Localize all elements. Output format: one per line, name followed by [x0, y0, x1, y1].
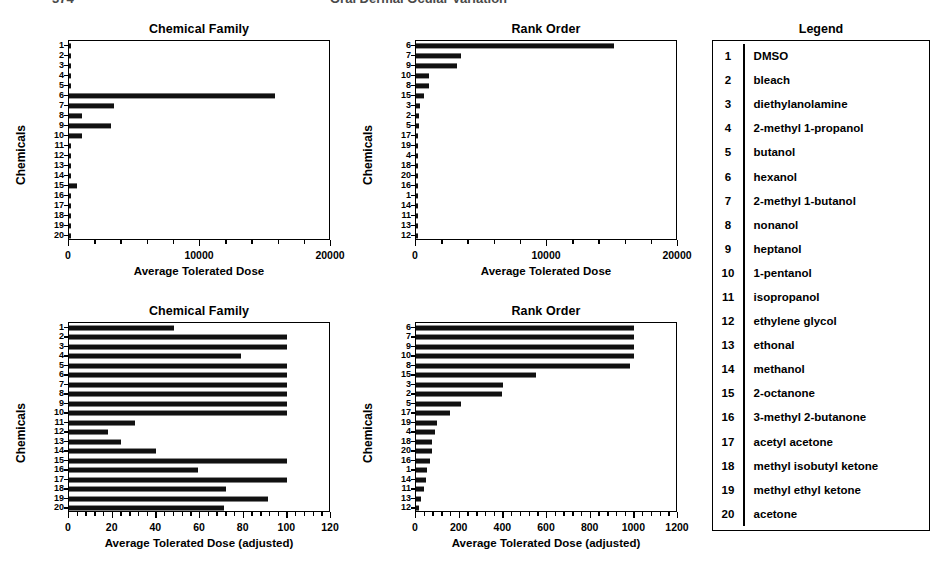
x-minor-tick-mark — [572, 512, 573, 516]
legend-row-number: 2 — [713, 74, 743, 86]
bar-row — [416, 494, 676, 504]
bar-row — [416, 361, 676, 371]
plot-area — [415, 322, 677, 512]
bar-row — [416, 485, 676, 495]
y-tick-mark — [411, 327, 415, 328]
y-tick-mark — [411, 365, 415, 366]
bar — [416, 487, 424, 492]
legend-row-label: 3-methyl 2-butanone — [745, 411, 866, 423]
legend-row-number: 17 — [713, 436, 743, 448]
x-tick-label: 600 — [537, 521, 555, 533]
legend-row: 14methanol — [713, 357, 929, 381]
bar — [416, 430, 435, 435]
bar — [416, 344, 634, 349]
y-tick-mark — [411, 384, 415, 385]
bar-row — [416, 342, 676, 352]
x-minor-tick-mark — [511, 512, 512, 516]
bar — [416, 411, 450, 416]
x-tick-mark — [590, 512, 591, 518]
bar — [416, 335, 634, 340]
legend-row-label: nonanol — [745, 219, 799, 231]
legend-row-label: methyl ethyl ketone — [745, 484, 861, 496]
legend-row: 17acetyl acetone — [713, 430, 929, 454]
bar — [416, 477, 426, 482]
x-minor-tick-mark — [668, 512, 669, 516]
bar-row — [416, 456, 676, 466]
x-minor-tick-mark — [616, 512, 617, 516]
legend-row-label: butanol — [745, 146, 796, 158]
legend-row: 13ethonal — [713, 333, 929, 357]
x-axis-title: Average Tolerated Dose (adjusted) — [415, 537, 677, 549]
legend-row-number: 4 — [713, 122, 743, 134]
x-tick-mark — [633, 512, 634, 518]
legend-row: 163-methyl 2-butanone — [713, 405, 929, 429]
y-tick-mark — [411, 346, 415, 347]
legend-row-number: 7 — [713, 195, 743, 207]
legend-row: 19methyl ethyl ketone — [713, 478, 929, 502]
y-tick-mark — [411, 374, 415, 375]
legend-row-number: 5 — [713, 146, 743, 158]
x-tick-mark — [415, 512, 416, 518]
y-axis-title: Chemicals — [361, 403, 375, 463]
legend-row-number: 9 — [713, 243, 743, 255]
legend-row-number: 16 — [713, 411, 743, 423]
legend-row-label: 2-methyl 1-butanol — [745, 195, 856, 207]
legend-row-number: 10 — [713, 267, 743, 279]
y-tick-mark — [411, 412, 415, 413]
bar-row — [416, 418, 676, 428]
legend-row-number: 20 — [713, 508, 743, 520]
bar — [416, 420, 437, 425]
y-tick-mark — [411, 422, 415, 423]
legend-row-label: 2-methyl 1-propanol — [745, 122, 864, 134]
bar — [416, 496, 421, 501]
x-minor-tick-mark — [467, 512, 468, 516]
bar — [416, 373, 536, 378]
legend-row-label: acetyl acetone — [745, 436, 833, 448]
y-tick-mark — [411, 507, 415, 508]
legend-row: 18methyl isobutyl ketone — [713, 454, 929, 478]
bar — [416, 506, 419, 511]
x-minor-tick-mark — [607, 512, 608, 516]
bar-row — [416, 371, 676, 381]
legend-row: 20acetone — [713, 502, 929, 526]
legend-table: 1DMSO2bleach3diethylanolamine42-methyl 1… — [712, 40, 930, 531]
legend-row-label: methyl isobutyl ketone — [745, 460, 879, 472]
bar-row — [416, 380, 676, 390]
y-tick-mark — [411, 450, 415, 451]
bar-row — [416, 390, 676, 400]
legend-row-label: acetone — [745, 508, 797, 520]
legend-row-number: 13 — [713, 339, 743, 351]
y-tick-mark — [411, 336, 415, 337]
legend-row: 1DMSO — [713, 44, 929, 68]
x-minor-tick-mark — [563, 512, 564, 516]
x-tick-mark — [502, 512, 503, 518]
x-tick-label: 0 — [412, 521, 418, 533]
bar-row — [416, 475, 676, 485]
legend-row-number: 14 — [713, 363, 743, 375]
legend-row-number: 11 — [713, 291, 743, 303]
legend-row: 72-methyl 1-butanol — [713, 189, 929, 213]
legend-row-number: 6 — [713, 171, 743, 183]
bar-row — [416, 428, 676, 438]
legend-row-number: 12 — [713, 315, 743, 327]
legend-row: 5butanol — [713, 140, 929, 164]
y-tick-mark — [411, 488, 415, 489]
y-tick-mark — [411, 431, 415, 432]
x-minor-tick-mark — [537, 512, 538, 516]
legend-row-number: 18 — [713, 460, 743, 472]
legend-row-number: 3 — [713, 98, 743, 110]
bar — [416, 354, 634, 359]
legend-row-label: ethylene glycol — [745, 315, 837, 327]
x-tick-label: 1200 — [665, 521, 688, 533]
y-tick-mark — [411, 403, 415, 404]
bar — [416, 439, 432, 444]
legend-row: 11isopropanol — [713, 285, 929, 309]
x-tick-mark — [459, 512, 460, 518]
bar-row — [416, 409, 676, 419]
legend-row: 8nonanol — [713, 213, 929, 237]
bar-row — [416, 399, 676, 409]
bar-row — [416, 447, 676, 457]
x-minor-tick-mark — [494, 512, 495, 516]
x-minor-tick-mark — [660, 512, 661, 516]
bar — [416, 382, 503, 387]
